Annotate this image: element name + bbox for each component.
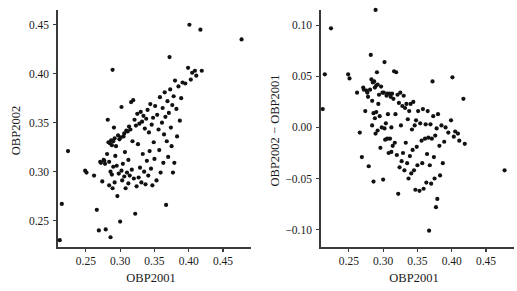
data-point — [375, 70, 379, 74]
y-tick-label: 0.35 — [29, 117, 49, 129]
data-point — [376, 128, 380, 132]
y-axis-title: OBP2002 − OBP2001 — [268, 75, 282, 187]
data-point — [390, 92, 394, 96]
data-point-group — [58, 23, 244, 243]
data-point — [367, 164, 371, 168]
data-point — [371, 179, 375, 183]
data-point — [427, 229, 431, 233]
data-point — [142, 170, 146, 174]
data-point — [133, 212, 137, 216]
data-point — [358, 130, 362, 134]
data-point — [112, 125, 116, 129]
data-point — [95, 208, 99, 212]
y-tick-label: 0.10 — [292, 19, 312, 31]
data-point — [160, 121, 164, 125]
data-point — [415, 145, 419, 149]
data-point — [165, 139, 169, 143]
data-point — [457, 139, 461, 143]
data-point — [159, 171, 163, 175]
data-point — [435, 197, 439, 201]
data-point — [370, 123, 374, 127]
x-tick-label: 0.35 — [407, 255, 427, 267]
data-point — [178, 119, 182, 123]
x-axis-title: OBP2001 — [126, 271, 175, 285]
data-point — [110, 172, 114, 176]
x-tick-label: 0.45 — [476, 255, 496, 267]
x-tick-label: 0.25 — [76, 255, 96, 267]
data-point — [121, 162, 125, 166]
data-point — [130, 139, 134, 143]
data-point — [130, 168, 134, 172]
data-point — [198, 28, 202, 32]
data-point — [161, 161, 165, 165]
data-point — [321, 107, 325, 111]
data-point — [113, 136, 117, 140]
x-tick-label: 0.25 — [339, 255, 359, 267]
data-point — [144, 117, 148, 121]
data-point — [151, 116, 155, 120]
data-point — [406, 117, 410, 121]
data-point — [404, 102, 408, 106]
data-point — [124, 186, 128, 190]
data-point — [58, 238, 62, 242]
data-point — [432, 176, 436, 180]
x-tick-label: 0.35 — [144, 255, 164, 267]
data-point — [407, 109, 411, 113]
data-point — [402, 168, 406, 172]
data-point — [189, 77, 193, 81]
data-point — [119, 169, 123, 173]
data-point — [139, 180, 143, 184]
data-point — [461, 97, 465, 101]
data-point — [161, 106, 165, 110]
data-point — [110, 186, 114, 190]
data-point — [103, 162, 107, 166]
data-point — [139, 110, 143, 114]
data-point — [186, 66, 190, 70]
data-point — [173, 78, 177, 82]
data-point — [395, 153, 399, 157]
data-point-group — [321, 8, 507, 233]
data-point — [107, 183, 111, 187]
data-point — [429, 182, 433, 186]
panel-obp2002-vs-obp2001: 0.250.300.350.400.450.250.300.350.400.45… — [0, 0, 258, 291]
data-point — [416, 109, 420, 113]
data-point — [424, 181, 428, 185]
data-point — [428, 163, 432, 167]
y-tick-label: 0.25 — [29, 215, 49, 227]
y-tick-label: 0.40 — [29, 68, 49, 80]
data-point — [384, 121, 388, 125]
data-point — [169, 144, 173, 148]
data-point — [368, 88, 372, 92]
data-point — [381, 177, 385, 181]
data-point — [388, 137, 392, 141]
data-point — [430, 79, 434, 83]
data-point — [414, 118, 418, 122]
data-point — [411, 100, 415, 104]
x-axis-title: OBP2001 — [389, 271, 438, 285]
data-point — [389, 150, 393, 154]
data-point — [369, 53, 373, 57]
data-point — [323, 72, 327, 76]
data-point — [108, 235, 112, 239]
x-tick-label: 0.30 — [373, 255, 393, 267]
data-point — [137, 175, 141, 179]
data-point — [183, 81, 187, 85]
data-point — [393, 141, 397, 145]
data-point — [397, 165, 401, 169]
data-point — [120, 178, 124, 182]
data-point — [382, 126, 386, 130]
data-point — [122, 174, 126, 178]
data-point — [113, 154, 117, 158]
data-point — [439, 123, 443, 127]
data-point — [374, 110, 378, 114]
data-point — [128, 127, 132, 131]
data-point — [401, 151, 405, 155]
y-tick-label: 0.45 — [29, 19, 49, 31]
data-point — [408, 154, 412, 158]
data-point — [110, 68, 114, 72]
data-point — [155, 113, 159, 117]
data-point — [141, 152, 145, 156]
data-point — [373, 116, 377, 120]
data-point — [406, 176, 410, 180]
data-point — [66, 149, 70, 153]
